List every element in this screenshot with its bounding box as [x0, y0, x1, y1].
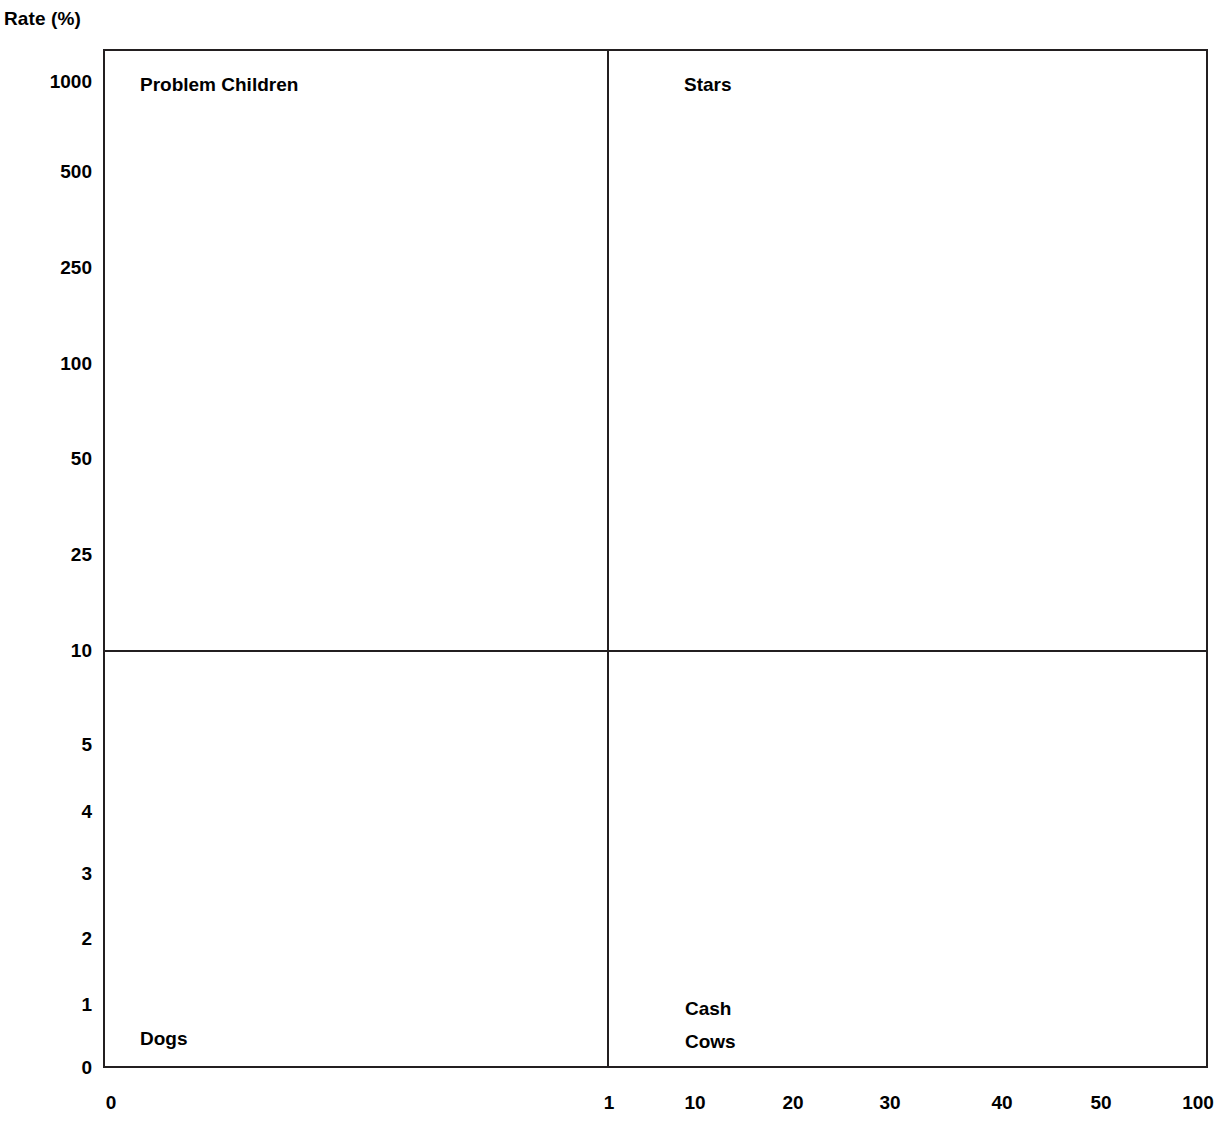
x-tick-label: 30 [879, 1092, 900, 1114]
y-tick-label: 50 [14, 448, 92, 470]
y-tick-label: 4 [14, 801, 92, 823]
quadrant-label-stars: Stars [684, 68, 732, 101]
horizontal-divider-line [103, 650, 1208, 652]
x-tick-label: 1 [604, 1092, 615, 1114]
y-tick-label: 1000 [14, 71, 92, 93]
y-tick-label: 0 [14, 1057, 92, 1079]
y-tick-label: 2 [14, 928, 92, 950]
x-tick-label: 10 [684, 1092, 705, 1114]
y-tick-label: 5 [14, 734, 92, 756]
y-tick-label: 1 [14, 994, 92, 1016]
y-axis-title: Rate (%) [4, 8, 81, 30]
x-tick-label: 20 [782, 1092, 803, 1114]
y-tick-label: 25 [14, 544, 92, 566]
bcg-matrix-chart: Rate (%) 1000500250100502510543210 01102… [0, 0, 1222, 1144]
vertical-divider-line [607, 49, 609, 1068]
y-tick-label: 100 [14, 353, 92, 375]
y-tick-label: 500 [14, 161, 92, 183]
y-tick-label: 10 [14, 640, 92, 662]
quadrant-label-cash-cows: Cash Cows [685, 992, 736, 1058]
y-tick-label: 3 [14, 863, 92, 885]
x-tick-label: 50 [1090, 1092, 1111, 1114]
x-tick-label: 0 [106, 1092, 117, 1114]
plot-area [103, 49, 1208, 1068]
x-tick-label: 40 [991, 1092, 1012, 1114]
quadrant-label-problem-children: Problem Children [140, 68, 298, 101]
y-tick-label: 250 [14, 257, 92, 279]
quadrant-label-dogs: Dogs [140, 1022, 188, 1055]
x-tick-label: 100 [1182, 1092, 1214, 1114]
